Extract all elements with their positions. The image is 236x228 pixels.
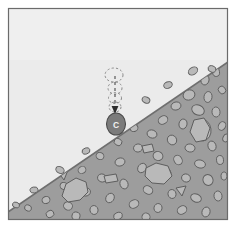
clast-on-slope-figure: C: [0, 0, 236, 228]
scan-grain-overlay: [8, 8, 228, 220]
figure-container: C: [0, 0, 236, 228]
figure-content: C: [8, 8, 230, 222]
